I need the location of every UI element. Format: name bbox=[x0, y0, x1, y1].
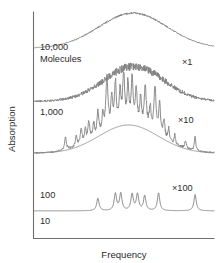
trace-label-10: 10 bbox=[40, 216, 50, 226]
x-axis-label: Frequency bbox=[101, 249, 147, 260]
multiplier-label-x10: ×10 bbox=[178, 115, 194, 125]
absorption-spectra-figure: Absorption Frequency 10,000 Molecules 1,… bbox=[0, 0, 224, 263]
chart-svg: Absorption Frequency 10,000 Molecules 1,… bbox=[0, 0, 224, 263]
trace-10-molecules bbox=[34, 192, 214, 211]
trace-label-molecules: Molecules bbox=[40, 54, 82, 64]
trace-label-1000: 1,000 bbox=[40, 107, 63, 117]
envelope-100-molecules bbox=[34, 125, 214, 153]
multiplier-label-x1: ×1 bbox=[182, 57, 192, 67]
trace-label-100: 100 bbox=[40, 190, 55, 200]
trace-label-10000: 10,000 bbox=[40, 42, 68, 52]
multiplier-label-x100: ×100 bbox=[172, 183, 193, 193]
y-axis-label: Absorption bbox=[6, 106, 17, 152]
